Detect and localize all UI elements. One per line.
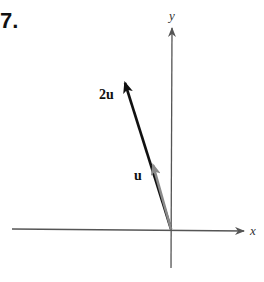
vector-u bbox=[153, 165, 171, 229]
vector-diagram: x y 2u u bbox=[0, 0, 264, 282]
vector-u-label: u bbox=[134, 168, 142, 183]
y-axis-label: y bbox=[167, 8, 175, 23]
x-axis bbox=[12, 229, 244, 231]
y-axis bbox=[171, 28, 172, 268]
x-axis-label: x bbox=[249, 223, 256, 238]
vector-2u-label: 2u bbox=[99, 87, 114, 102]
